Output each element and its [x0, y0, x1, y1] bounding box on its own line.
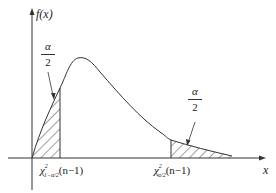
left-chi-arg: (n−1) [59, 164, 84, 176]
left-fraction-bar [41, 54, 55, 55]
x-axis-label: x [263, 164, 268, 176]
right-chi-sup: 2 [159, 163, 162, 169]
right-tail-hatch [170, 138, 234, 160]
left-pointer-line [48, 72, 53, 96]
left-alpha-num: α [41, 41, 55, 52]
density-curve [32, 58, 232, 158]
x-axis-arrow [259, 156, 266, 161]
right-chi-arg: (n−1) [166, 164, 191, 176]
left-critical-value-label: χ21−α/2(n−1) [40, 164, 83, 178]
right-pointer-line [188, 122, 195, 143]
right-alpha-num: α [188, 86, 202, 97]
right-alpha-half-label: α 2 [188, 86, 202, 113]
right-critical-value-label: χ2α/2(n−1) [154, 164, 190, 178]
left-alpha-den: 2 [41, 57, 55, 68]
right-fraction-bar [188, 99, 202, 100]
left-chi-sub: 1−α/2 [44, 172, 59, 178]
y-axis-arrow [30, 8, 35, 15]
right-chi-sub: α/2 [158, 172, 166, 178]
left-alpha-half-label: α 2 [41, 41, 55, 68]
left-chi-sup: 2 [45, 163, 48, 169]
right-alpha-den: 2 [188, 102, 202, 113]
y-axis-label: f(x) [36, 8, 53, 20]
